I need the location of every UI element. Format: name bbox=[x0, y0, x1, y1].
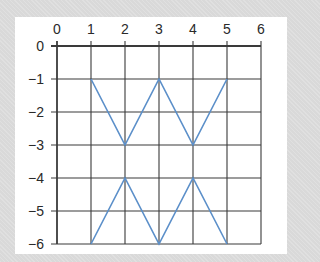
x-tick-label: 5 bbox=[223, 21, 231, 37]
x-tick-label: 3 bbox=[155, 21, 163, 37]
y-tick-label: −6 bbox=[28, 236, 44, 252]
x-tick-label: 6 bbox=[257, 21, 265, 37]
line-chart: 0123456 0−1−2−3−4−5−6 bbox=[0, 0, 296, 262]
x-axis-tick-labels: 0123456 bbox=[53, 21, 265, 37]
y-tick-label: −4 bbox=[28, 170, 44, 186]
y-tick-label: −5 bbox=[28, 203, 44, 219]
x-tick-label: 2 bbox=[121, 21, 129, 37]
y-tick-label: −2 bbox=[28, 104, 44, 120]
y-tick-label: 0 bbox=[36, 38, 44, 54]
y-tick-label: −3 bbox=[28, 137, 44, 153]
grid-lines bbox=[51, 41, 261, 244]
y-tick-label: −1 bbox=[28, 71, 44, 87]
x-tick-label: 1 bbox=[87, 21, 95, 37]
y-axis-tick-labels: 0−1−2−3−4−5−6 bbox=[28, 38, 44, 252]
x-tick-label: 0 bbox=[53, 21, 61, 37]
x-tick-label: 4 bbox=[189, 21, 197, 37]
